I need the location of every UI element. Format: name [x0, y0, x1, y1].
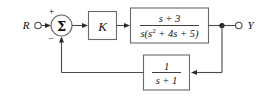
feedback-denominator: s + 1	[156, 75, 178, 86]
feedback-numerator: 1	[164, 61, 169, 72]
arrow-sum-to-gain	[82, 23, 88, 28]
arrow-input-to-sum	[45, 23, 51, 28]
arrow-into-feedback-block	[191, 70, 197, 75]
gain-block-label: K	[97, 19, 108, 34]
plant-numerator: s + 3	[159, 13, 181, 24]
sigma-symbol: Σ	[57, 19, 66, 34]
output-terminal-circle[interactable]	[236, 22, 242, 28]
plant-denominator-rest: + 4s + 5)	[156, 28, 199, 40]
arrow-feedback-into-sum	[59, 37, 64, 43]
input-label-R: R	[22, 19, 30, 31]
arrow-gain-to-plant	[124, 23, 130, 28]
plant-denominator-base: s(s	[141, 28, 153, 40]
sum-positive-sign: +	[49, 6, 55, 17]
block-diagram-canvas: R Σ + − K s + 3 s(s2 + 4s + 5)	[0, 0, 262, 97]
plant-denominator: s(s2 + 4s + 5)	[141, 27, 199, 40]
sum-negative-sign: −	[48, 33, 54, 44]
output-label-Y: Y	[247, 19, 255, 31]
block-diagram-svg: R Σ + − K s + 3 s(s2 + 4s + 5)	[0, 0, 262, 97]
input-terminal-circle[interactable]	[35, 22, 41, 28]
